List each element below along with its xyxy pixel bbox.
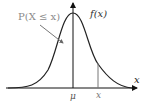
x-value-label: x [96,90,101,100]
cdf-label: P(X ≤ x) [18,11,60,22]
pdf-label: f(x) [89,8,107,19]
x-axis-label: x [134,74,140,85]
normal-distribution-diagram: P(X ≤ x) f(x) μ x x [0,0,152,109]
density-curve [8,13,132,88]
mean-label: μ [70,91,76,101]
